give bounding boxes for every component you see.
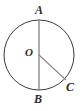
point-label-a: A <box>35 4 43 16</box>
point-label-c: C <box>66 81 74 93</box>
radius-segment-OC <box>39 55 66 80</box>
point-label-o: O <box>25 47 33 58</box>
point-label-b: B <box>34 93 42 105</box>
geometry-figure: A B C O <box>0 0 83 111</box>
